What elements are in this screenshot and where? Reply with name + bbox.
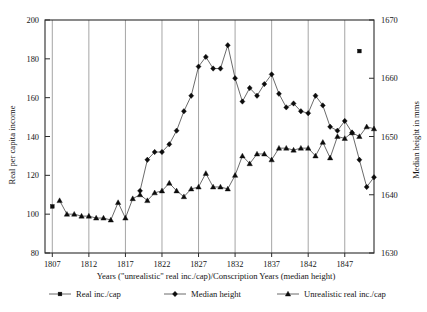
bottom-tick-label: 1822 [154, 260, 171, 269]
figure-background [0, 0, 427, 312]
left-axis-title: Real per capita income [7, 105, 17, 184]
right-tick-label: 1640 [381, 191, 398, 200]
right-tick-label: 1660 [381, 74, 398, 83]
left-tick-label: 160 [26, 94, 39, 103]
left-tick-label: 100 [26, 210, 39, 219]
left-tick-label: 120 [26, 171, 39, 180]
right-tick-label: 1650 [381, 133, 398, 142]
legend-label: Real inc./cap [76, 289, 121, 299]
chart-figure: 80100120140160180200 1630164016501660167… [0, 0, 427, 312]
bottom-tick-label: 1812 [80, 260, 97, 269]
bottom-axis-title: Years ("unrealistic" real inc./cap)/Cons… [97, 271, 336, 281]
legend-group: Real inc./capMedian heightUnrealistic re… [49, 289, 386, 299]
square-marker [58, 292, 62, 296]
bottom-tick-label: 1847 [336, 260, 353, 269]
bottom-tick-label: 1842 [300, 260, 317, 269]
left-tick-label: 140 [26, 133, 39, 142]
square-marker [50, 205, 54, 209]
left-tick-label: 80 [31, 249, 39, 258]
right-tick-label: 1670 [381, 16, 398, 25]
bottom-tick-label: 1817 [117, 260, 134, 269]
bottom-tick-label: 1832 [227, 260, 244, 269]
right-tick-label: 1630 [381, 249, 398, 258]
legend-label: Median height [191, 289, 241, 299]
left-tick-label: 200 [26, 16, 39, 25]
bottom-tick-label: 1837 [263, 260, 280, 269]
legend-label: Unrealistic real inc./cap [304, 289, 386, 299]
right-axis-title: Median height in mms [411, 101, 421, 179]
square-marker [358, 49, 362, 53]
bottom-tick-label: 1827 [190, 260, 207, 269]
bottom-tick-label: 1807 [44, 260, 61, 269]
chart-svg: 80100120140160180200 1630164016501660167… [0, 0, 427, 312]
left-tick-label: 180 [26, 55, 39, 64]
